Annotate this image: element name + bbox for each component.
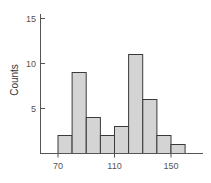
histogram-bar (58, 136, 72, 154)
x-tick-label: 70 (53, 161, 63, 171)
histogram-chart: 51015 70110150 Counts (0, 0, 211, 183)
x-tick-label: 150 (163, 161, 178, 171)
y-axis-title: Counts (9, 64, 20, 96)
x-tick-label: 110 (107, 161, 121, 171)
y-axis-ticks: 51015 (26, 14, 45, 114)
histogram-bar (115, 127, 129, 154)
histogram-bars (58, 55, 185, 154)
histogram-bar (143, 100, 157, 154)
histogram-bar (157, 136, 171, 154)
histogram-bar (129, 55, 143, 154)
histogram-bar (72, 73, 86, 154)
y-tick-label: 15 (26, 14, 36, 24)
histogram-bar (171, 145, 185, 154)
histogram-bar (100, 136, 114, 154)
y-tick-label: 10 (26, 59, 36, 69)
y-tick-label: 5 (31, 104, 36, 114)
histogram-bar (86, 118, 100, 154)
x-axis-ticks: 70110150 (53, 154, 179, 171)
